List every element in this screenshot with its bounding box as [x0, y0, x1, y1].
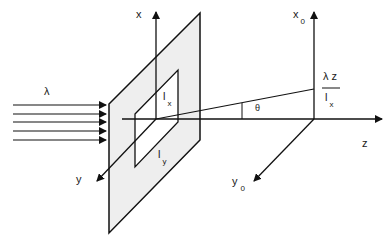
ly-main: l — [158, 148, 160, 160]
y0-main: y — [232, 175, 238, 187]
fraction-den-subscript: x — [329, 100, 333, 109]
y0-axis — [254, 119, 314, 181]
fraction-numerator: λ z — [323, 71, 337, 82]
y0-axis-label: y0 — [232, 176, 242, 187]
x0-axis-label: x0 — [293, 9, 303, 20]
y-axis-label: y — [76, 174, 82, 185]
fraction-denominator: lx — [325, 92, 331, 103]
fraunhofer-aperture-diagram — [0, 0, 385, 238]
incident-rays — [13, 105, 106, 140]
lx-label: lx — [163, 91, 169, 102]
lx-main: l — [163, 90, 165, 102]
x-axis-label: x — [136, 9, 142, 20]
lx-subscript: x — [167, 99, 171, 108]
ly-label: ly — [158, 149, 164, 160]
lambda-label: λ — [44, 86, 50, 97]
x0-main: x — [293, 8, 299, 20]
x0-subscript: 0 — [301, 17, 305, 26]
z-axis-label: z — [362, 138, 368, 149]
angle-label: θ — [255, 104, 260, 113]
fraction-den-main: l — [325, 91, 327, 103]
y0-subscript: 0 — [241, 184, 245, 193]
ly-subscript: y — [162, 157, 166, 166]
